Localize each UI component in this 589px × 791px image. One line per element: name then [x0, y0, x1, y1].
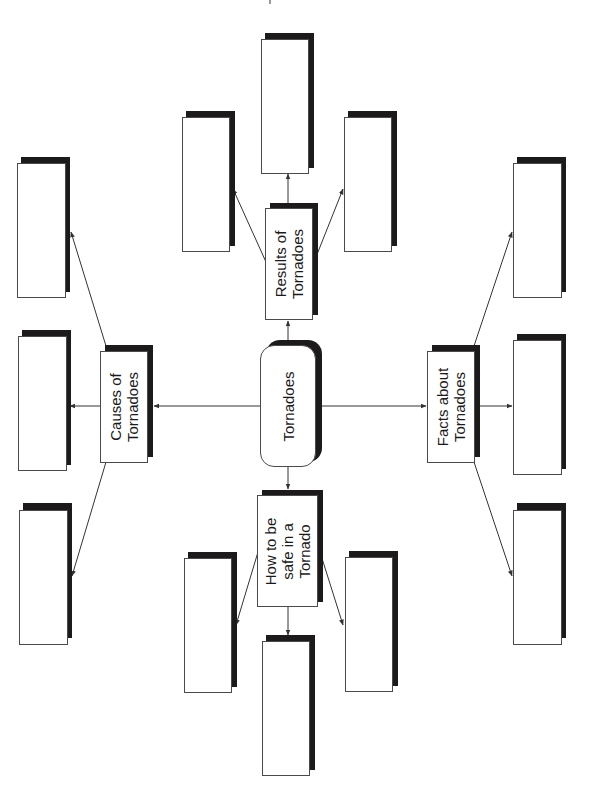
branch-node-results: Results of Tornadoes: [265, 203, 319, 321]
leaf-box-results-2[interactable]: [261, 33, 315, 174]
leaf-face[interactable]: [17, 163, 66, 298]
leaf-face[interactable]: [345, 557, 393, 692]
leaf-box-facts-3[interactable]: [513, 503, 567, 645]
branch-node-safety: How to be safe in a Tornado: [257, 490, 323, 608]
leaf-box-causes-2[interactable]: [18, 330, 72, 471]
leaf-face[interactable]: [513, 340, 562, 475]
leaf-box-safety-1[interactable]: [184, 552, 238, 693]
leaf-box-causes-3[interactable]: [19, 503, 73, 645]
leaf-face[interactable]: [262, 641, 310, 776]
center-node-tornadoes: Tornadoes: [260, 340, 323, 468]
center-label: Tornadoes: [280, 371, 297, 441]
causes-label: Causes of Tornadoes: [107, 372, 141, 442]
leaf-face[interactable]: [513, 163, 562, 298]
branch-node-facts: Facts about Tornadoes: [427, 345, 481, 463]
leaf-box-results-3[interactable]: [344, 111, 398, 252]
tornado-web-organizer: Tornadoes Results of Tornadoes Causes of…: [0, 0, 589, 791]
leaf-face[interactable]: [18, 336, 67, 471]
branch-node-causes: Causes of Tornadoes: [100, 345, 154, 463]
leaf-face[interactable]: [261, 39, 309, 174]
leaf-face[interactable]: [19, 510, 68, 645]
leaf-box-safety-2[interactable]: [262, 635, 316, 776]
leaf-face[interactable]: [513, 510, 562, 645]
leaf-box-results-1[interactable]: [182, 111, 236, 252]
leaf-box-causes-1[interactable]: [17, 157, 71, 298]
results-label: Results of Tornadoes: [272, 229, 306, 299]
leaf-face[interactable]: [184, 558, 232, 693]
leaf-face[interactable]: [182, 117, 230, 252]
safety-label: How to be safe in a Tornado: [262, 517, 313, 585]
leaf-face[interactable]: [344, 117, 392, 252]
facts-label: Facts about Tornadoes: [434, 368, 468, 446]
leaf-box-facts-1[interactable]: [513, 157, 567, 298]
leaf-box-safety-3[interactable]: [345, 551, 399, 692]
leaf-box-facts-2[interactable]: [513, 334, 567, 475]
